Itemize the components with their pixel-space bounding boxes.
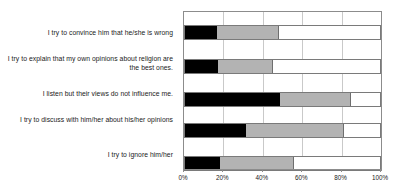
category-axis-labels: I try to convince him that he/she is wro… xyxy=(0,11,178,169)
bar-segment-2 xyxy=(217,26,278,39)
segment-divider xyxy=(278,26,279,39)
bar-row xyxy=(184,59,381,74)
x-axis-tick-label: 40% xyxy=(247,174,277,182)
bar-segment-2 xyxy=(280,93,351,106)
x-axis-tick xyxy=(262,169,263,172)
bar-segment-3 xyxy=(350,93,381,106)
x-axis-tick-labels: 0%20%40%60%80%100% xyxy=(0,174,403,186)
x-axis-tick-label: 80% xyxy=(326,174,356,182)
segment-divider xyxy=(343,124,344,137)
bar-row xyxy=(184,92,381,107)
plot-area xyxy=(183,11,382,171)
x-axis-tick xyxy=(301,169,302,172)
category-label: I try to explain that my own opinions ab… xyxy=(0,55,173,72)
bar-segment-1 xyxy=(185,124,246,137)
category-label: I listen but their views do not influenc… xyxy=(0,90,173,99)
bar-segment-3 xyxy=(278,26,381,39)
bar-segment-2 xyxy=(218,60,271,73)
category-label: I try to convince him that he/she is wro… xyxy=(0,29,173,38)
bar-segment-1 xyxy=(185,93,280,106)
bar-row xyxy=(184,25,381,40)
x-axis-tick-label: 0% xyxy=(168,174,198,182)
bar-segment-3 xyxy=(343,124,381,137)
bar-row xyxy=(184,123,381,138)
bar-segment-3 xyxy=(272,60,381,73)
x-axis-tick xyxy=(222,169,223,172)
x-axis-tick-label: 100% xyxy=(365,174,395,182)
bars-layer xyxy=(184,12,381,170)
bar-segment-1 xyxy=(185,60,218,73)
category-label: I try to ignore him/her xyxy=(0,151,173,160)
x-axis-tick-label: 20% xyxy=(207,174,237,182)
x-axis-tick-label: 60% xyxy=(286,174,316,182)
bar-segment-1 xyxy=(185,26,217,39)
x-axis-tick xyxy=(183,169,184,172)
bar-segment-2 xyxy=(246,124,343,137)
x-axis-tick xyxy=(341,169,342,172)
category-label: I try to discuss with him/her about his/… xyxy=(0,116,173,125)
segment-divider xyxy=(350,93,351,106)
segment-divider xyxy=(272,60,273,73)
stacked-bar-chart: I try to convince him that he/she is wro… xyxy=(0,0,403,195)
x-axis-tick xyxy=(380,169,381,172)
x-axis-line xyxy=(183,169,380,170)
